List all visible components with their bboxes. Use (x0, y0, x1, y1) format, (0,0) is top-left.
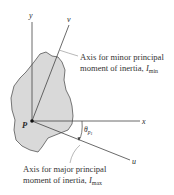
u-axis-label: u (132, 157, 136, 166)
major-axis-note-line1: Axis for major principal (23, 164, 107, 174)
principal-axes-diagram: y x v u P θp1 Axis for minor principal m… (0, 0, 174, 195)
point-p-label: P (22, 120, 28, 130)
v-axis-label: v (67, 15, 71, 24)
angle-theta-label: θp1 (84, 125, 92, 136)
minor-axis-note-line2: moment of inertia, Imin (80, 63, 158, 74)
minor-axis-note-line1: Axis for minor principal (80, 52, 164, 62)
y-axis-label: y (28, 11, 33, 20)
major-axis-note-line2: moment of inertia, Imax (23, 175, 102, 186)
minor-axis-leader (59, 50, 78, 56)
diagram-canvas: y x v u P θp1 Axis for minor principal m… (0, 0, 174, 195)
point-p-marker (30, 119, 34, 123)
major-axis-leader (70, 145, 80, 163)
x-axis-label: x (141, 117, 146, 126)
angle-arc (79, 121, 82, 140)
cross-section-region (11, 52, 73, 152)
